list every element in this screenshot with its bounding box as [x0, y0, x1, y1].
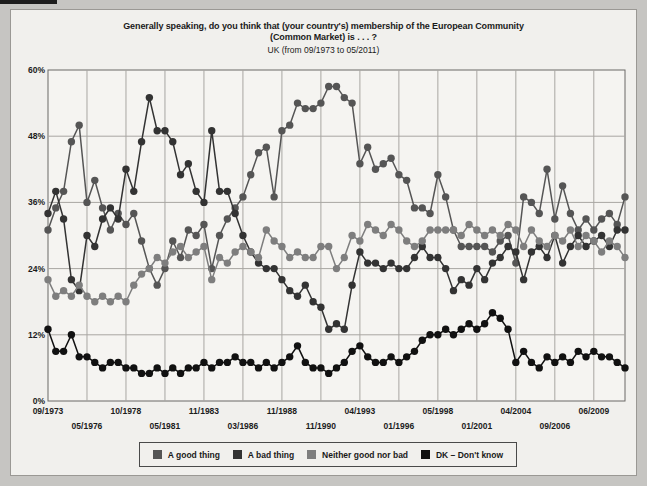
scanned-chart-page: { "title": { "line1": "Generally speakin…: [0, 0, 647, 486]
x-axis-labels: 09/197305/197610/197805/198111/198303/19…: [33, 406, 610, 431]
svg-text:01/1996: 01/1996: [384, 421, 415, 431]
legend-item-dk: DK – Don't know: [421, 450, 503, 460]
svg-text:09/2006: 09/2006: [539, 421, 570, 431]
svg-text:24%: 24%: [28, 264, 45, 274]
chart-svg: 0%12%24%36%48%60%09/197305/197610/197805…: [0, 0, 647, 486]
legend-label: Neither good nor bad: [322, 450, 408, 460]
legend-label: A good thing: [168, 450, 220, 460]
legend-label: DK – Don't know: [436, 450, 503, 460]
svg-text:60%: 60%: [28, 65, 45, 75]
svg-text:01/2001: 01/2001: [461, 421, 492, 431]
legend-item-neither: Neither good nor bad: [307, 450, 408, 460]
svg-text:06/2009: 06/2009: [578, 406, 609, 416]
svg-text:36%: 36%: [28, 197, 45, 207]
svg-text:48%: 48%: [28, 131, 45, 141]
legend-item-bad-thing: A bad thing: [233, 450, 294, 460]
legend-item-good-thing: A good thing: [153, 450, 220, 460]
svg-text:0%: 0%: [33, 396, 46, 406]
legend-label: A bad thing: [248, 450, 294, 460]
svg-text:11/1983: 11/1983: [189, 406, 220, 416]
neither-swatch-icon: [307, 450, 316, 459]
svg-text:09/1973: 09/1973: [33, 406, 64, 416]
chart-legend: A good thing A bad thing Neither good no…: [139, 442, 517, 467]
svg-text:11/1988: 11/1988: [267, 406, 298, 416]
plot-area: [48, 70, 625, 401]
y-axis-labels: 0%12%24%36%48%60%: [28, 65, 45, 406]
svg-text:04/2004: 04/2004: [500, 406, 531, 416]
svg-text:03/1986: 03/1986: [228, 421, 259, 431]
svg-text:05/1976: 05/1976: [72, 421, 103, 431]
bad-thing-swatch-icon: [233, 450, 242, 459]
good-thing-swatch-icon: [153, 450, 162, 459]
svg-text:05/1998: 05/1998: [422, 406, 453, 416]
svg-text:12%: 12%: [28, 330, 45, 340]
svg-text:10/1978: 10/1978: [111, 406, 142, 416]
svg-text:04/1993: 04/1993: [345, 406, 376, 416]
dk-swatch-icon: [421, 450, 430, 459]
svg-text:05/1981: 05/1981: [150, 421, 181, 431]
svg-text:11/1990: 11/1990: [306, 421, 337, 431]
